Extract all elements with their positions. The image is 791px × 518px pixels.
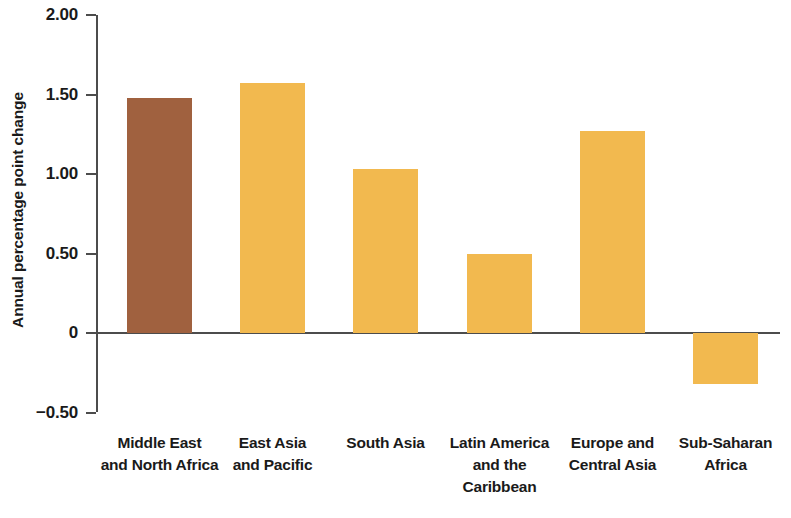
bar bbox=[467, 254, 532, 334]
y-axis-tick bbox=[86, 412, 96, 414]
bar bbox=[240, 83, 305, 333]
bar bbox=[693, 333, 758, 384]
y-axis-tick bbox=[86, 253, 96, 255]
bar-chart: Annual percentage point change 2.001.501… bbox=[0, 0, 791, 518]
y-axis-tick bbox=[86, 94, 96, 96]
y-axis-tick-label: 1.50 bbox=[46, 85, 78, 105]
bar bbox=[127, 98, 192, 333]
y-axis-tick-label: 2.00 bbox=[46, 5, 78, 25]
y-axis-line bbox=[96, 15, 98, 412]
y-axis-tick bbox=[86, 332, 96, 334]
y-axis-tick-label: −0.50 bbox=[36, 403, 78, 423]
y-axis-tick-label: 0.50 bbox=[46, 244, 78, 264]
x-axis-category-label-line: Africa bbox=[656, 454, 791, 476]
y-axis-tick bbox=[86, 14, 96, 16]
bar bbox=[353, 169, 418, 333]
y-axis-tick-label: 0 bbox=[69, 323, 78, 343]
y-axis-tick-label: 1.00 bbox=[46, 164, 78, 184]
x-axis-category-label-line: Sub-Saharan bbox=[656, 432, 791, 454]
x-axis-category-label-line: Caribbean bbox=[430, 476, 570, 498]
y-axis-tick bbox=[86, 173, 96, 175]
x-axis-category-label: Sub-SaharanAfrica bbox=[656, 432, 791, 476]
zero-baseline bbox=[96, 332, 780, 334]
y-axis-title: Annual percentage point change bbox=[0, 0, 36, 420]
bar bbox=[580, 131, 645, 333]
x-axis-category-label-line: and Pacific bbox=[203, 454, 343, 476]
y-axis-title-text: Annual percentage point change bbox=[9, 92, 27, 328]
